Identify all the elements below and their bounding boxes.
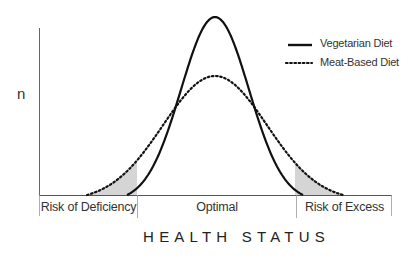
right-tail-hatching [296,164,340,195]
zone-optimal: Optimal [138,197,296,217]
zone-risk-of-deficiency: Risk of Deficiency [40,197,137,217]
legend-meat-based: Meat-Based Diet [320,56,399,68]
meat-based-curve [87,76,343,195]
legend-vegetarian: Vegetarian Diet [320,37,392,49]
x-axis-title: HEALTH STATUS [0,228,413,245]
vegetarian-curve [127,17,303,195]
y-axis-label: n [17,85,25,102]
zone-risk-of-excess: Risk of Excess [297,197,392,217]
